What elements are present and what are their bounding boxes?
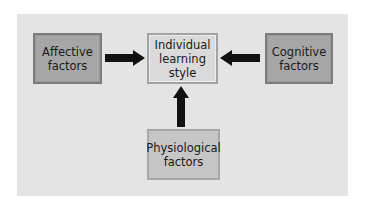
individual-learning-style-label: Individual learning style [154, 38, 210, 80]
arrow-left-icon [220, 50, 260, 66]
arrow-up-icon [173, 86, 189, 127]
physiological-factors-label: Physiological factors [146, 141, 221, 169]
affective-factors-node: Affective factors [33, 33, 102, 84]
individual-learning-style-node: Individual learning style [147, 33, 218, 84]
cognitive-factors-node: Cognitive factors [265, 33, 333, 84]
physiological-factors-node: Physiological factors [147, 129, 220, 180]
arrow-right-icon [105, 50, 145, 66]
cognitive-factors-label: Cognitive factors [272, 45, 326, 73]
affective-factors-label: Affective factors [42, 45, 93, 73]
